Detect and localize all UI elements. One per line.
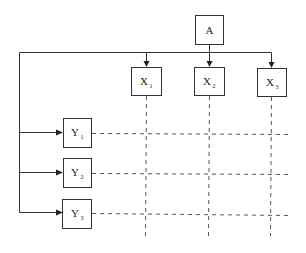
arrow-x1-head: [144, 61, 150, 67]
node-a-label: A: [206, 24, 214, 36]
node-x3-label: X: [266, 76, 274, 88]
grid-col-x2: [209, 96, 210, 236]
grid-row-y3: [92, 214, 290, 216]
node-y2-label: Y: [71, 166, 79, 178]
arrow-y1-head: [56, 130, 63, 136]
node-y3-subscript: 3: [81, 215, 84, 221]
node-x1-subscript: 1: [150, 83, 153, 89]
node-x2-label: X: [203, 75, 211, 87]
arrow-x3-head: [269, 62, 275, 68]
node-y1-label: Y: [71, 126, 79, 138]
grid-row-y1: [92, 134, 290, 135]
node-x2-subscript: 2: [213, 83, 216, 89]
node-y1-subscript: 1: [81, 134, 84, 140]
node-x1: X 1: [132, 68, 162, 96]
arrow-x2-head: [207, 61, 213, 67]
arrow-y3-head: [56, 210, 63, 216]
node-x3: X 3: [258, 69, 287, 97]
node-x3-subscript: 3: [276, 84, 279, 90]
arrow-y2-head: [56, 170, 63, 176]
node-y3: Y 3: [63, 200, 92, 229]
diagram-canvas: A X 1 X 2 X 3 Y 1 Y 2: [0, 0, 306, 253]
node-y2-subscript: 2: [81, 174, 84, 180]
node-x1-label: X: [140, 75, 148, 87]
node-y3-label: Y: [71, 207, 79, 219]
node-y2: Y 2: [64, 159, 92, 188]
grid-col-x1: [146, 96, 147, 236]
node-a: A: [196, 16, 224, 45]
grid-row-y2: [92, 174, 290, 175]
node-y1: Y 1: [64, 119, 92, 148]
node-x2: X 2: [195, 68, 225, 96]
